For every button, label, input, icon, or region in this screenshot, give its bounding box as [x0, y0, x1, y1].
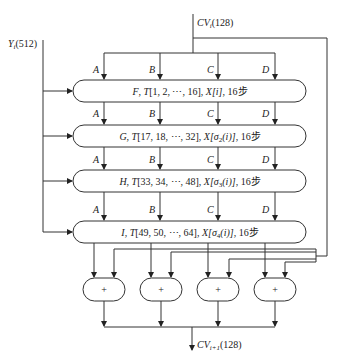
svg-text:B: B — [149, 154, 155, 165]
cv-output-label: CVi+1(128) — [197, 339, 242, 352]
svg-text:C: C — [207, 154, 214, 165]
feedforward-distribution — [114, 249, 327, 277]
adders: + + + + — [83, 278, 296, 301]
cv-input-label: CVi(128) — [197, 17, 233, 30]
round-output-arrows — [94, 243, 265, 277]
adder-output-arrows — [104, 301, 275, 350]
svg-text:+: + — [215, 284, 221, 295]
svg-text:B: B — [149, 204, 155, 215]
svg-text:C: C — [207, 108, 214, 119]
block-input-label: Yi(512) — [8, 38, 37, 51]
svg-text:D: D — [261, 108, 270, 119]
svg-text:C: C — [207, 204, 214, 215]
svg-text:D: D — [261, 154, 270, 165]
adder-d: + — [254, 278, 296, 301]
round-h: H, T[33, 34, ⋯, 48], X[σ3(i)], 16步 — [73, 170, 306, 192]
adder-c: + — [197, 278, 239, 301]
round-g: G, T[17, 18, ⋯, 32], X[σ2(i)], 16步 — [73, 125, 306, 147]
svg-text:A: A — [92, 204, 100, 215]
md5-diagram: CVi(128) Yi(512) — [0, 0, 341, 360]
svg-text:A: A — [92, 64, 100, 75]
svg-text:D: D — [261, 204, 270, 215]
svg-text:B: B — [149, 64, 155, 75]
svg-text:B: B — [149, 108, 155, 119]
block-input: Yi(512) — [8, 38, 72, 232]
svg-text:+: + — [158, 284, 164, 295]
svg-text:A: A — [92, 154, 100, 165]
svg-text:+: + — [272, 284, 278, 295]
adder-a: + — [83, 278, 125, 301]
svg-text:D: D — [261, 64, 270, 75]
svg-text:C: C — [207, 64, 214, 75]
round-i: I, T[49, 50, ⋯, 64], X[σ4(i)], 16步 — [73, 221, 306, 243]
svg-text:A: A — [92, 108, 100, 119]
round-f: F, T[1, 2, ⋯, 16], X[i], 16步 — [73, 80, 306, 102]
adder-b: + — [140, 278, 182, 301]
round-f-label: F, T[1, 2, ⋯, 16], X[i], 16步 — [131, 86, 247, 97]
svg-text:+: + — [101, 284, 107, 295]
